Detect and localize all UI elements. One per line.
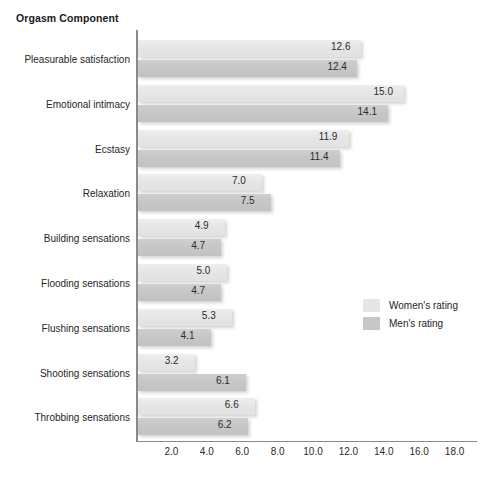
bar-value-label: 11.4 — [310, 151, 329, 162]
x-axis-line — [136, 441, 477, 442]
bar-chart: Orgasm Component Pleasurable satisfactio… — [0, 0, 491, 489]
bar-row: 3.2 — [138, 354, 477, 371]
bar-row: 11.4 — [138, 150, 477, 167]
bar-row: 7.5 — [138, 194, 477, 211]
x-tick-label: 2.0 — [164, 446, 178, 457]
legend-item[interactable]: Men's rating — [363, 315, 458, 331]
bar-value-label: 6.6 — [225, 399, 239, 410]
bar[interactable] — [138, 329, 211, 346]
bar-group: 3.26.1 — [138, 354, 477, 391]
bar-value-label: 14.1 — [358, 106, 377, 117]
x-tick-label: 12.0 — [339, 446, 358, 457]
bar-row: 4.7 — [138, 239, 477, 256]
legend-item[interactable]: Women's rating — [363, 297, 458, 313]
bar-value-label: 4.7 — [191, 285, 205, 296]
category-label: Flushing sensations — [2, 323, 130, 334]
bar-row: 11.9 — [138, 130, 477, 147]
bar-row: 12.4 — [138, 60, 477, 77]
x-tick-label: 14.0 — [374, 446, 393, 457]
bar-value-label: 12.4 — [327, 61, 346, 72]
category-label: Emotional intimacy — [2, 99, 130, 110]
legend-swatch-icon — [363, 317, 380, 330]
bar-value-label: 4.9 — [195, 220, 209, 231]
bar[interactable] — [138, 309, 232, 326]
bar[interactable] — [138, 130, 349, 147]
bar[interactable] — [138, 284, 221, 301]
bar-row: 12.6 — [138, 40, 477, 57]
page-title: Orgasm Component — [16, 12, 119, 24]
bar-row: 6.1 — [138, 374, 477, 391]
bar-value-label: 12.6 — [331, 41, 350, 52]
bar-row: 7.0 — [138, 174, 477, 191]
bar-row: 15.0 — [138, 85, 477, 102]
bar-value-label: 6.2 — [218, 419, 232, 430]
category-label: Shooting sensations — [2, 368, 130, 379]
bar-row: 6.6 — [138, 398, 477, 415]
x-tick-label: 8.0 — [271, 446, 285, 457]
x-tick-label: 10.0 — [303, 446, 322, 457]
bar-row: 5.0 — [138, 264, 477, 281]
bar[interactable] — [138, 239, 221, 256]
y-axis-category-labels: Pleasurable satisfactionEmotional intima… — [0, 30, 130, 442]
x-tick-label: 16.0 — [409, 446, 428, 457]
bar-group: 4.94.7 — [138, 219, 477, 256]
category-label: Flooding sensations — [2, 278, 130, 289]
bar-value-label: 7.5 — [241, 195, 255, 206]
bar-value-label: 6.1 — [216, 375, 230, 386]
bar-value-label: 5.0 — [197, 265, 211, 276]
bar-value-label: 11.9 — [319, 131, 338, 142]
bar-value-label: 5.3 — [202, 310, 216, 321]
bar[interactable] — [138, 264, 227, 281]
legend-label: Women's rating — [389, 300, 458, 311]
legend-swatch-icon — [363, 299, 380, 312]
x-tick-label: 6.0 — [235, 446, 249, 457]
bar-group: 12.612.4 — [138, 40, 477, 77]
bar-row: 6.2 — [138, 418, 477, 435]
category-label: Pleasurable satisfaction — [2, 54, 130, 65]
bar[interactable] — [138, 60, 357, 77]
bar-group: 15.014.1 — [138, 85, 477, 122]
bar-group: 5.04.7 — [138, 264, 477, 301]
category-label: Building sensations — [2, 233, 130, 244]
bar-value-label: 15.0 — [374, 86, 393, 97]
legend: Women's ratingMen's rating — [363, 297, 458, 333]
category-label: Ecstasy — [2, 144, 130, 155]
bar[interactable] — [138, 105, 388, 122]
bar-row: 4.9 — [138, 219, 477, 236]
bar-value-label: 3.2 — [165, 355, 179, 366]
bar-value-label: 4.7 — [191, 240, 205, 251]
bar-row: 14.1 — [138, 105, 477, 122]
bar[interactable] — [138, 40, 361, 57]
legend-label: Men's rating — [389, 318, 443, 329]
bar-value-label: 4.1 — [181, 330, 195, 341]
bar-group: 7.07.5 — [138, 174, 477, 211]
bar-group: 6.66.2 — [138, 398, 477, 435]
plot-area: 12.612.415.014.111.911.47.07.54.94.75.04… — [136, 30, 477, 442]
category-label: Relaxation — [2, 188, 130, 199]
bar[interactable] — [138, 85, 404, 102]
bar-value-label: 7.0 — [232, 175, 246, 186]
bar-group: 11.911.4 — [138, 130, 477, 167]
x-tick-label: 4.0 — [200, 446, 214, 457]
x-tick-label: 18.0 — [445, 446, 464, 457]
x-axis-tick-labels: 2.04.06.08.010.012.014.016.018.0 — [136, 446, 477, 462]
bar[interactable] — [138, 219, 225, 236]
category-label: Throbbing sensations — [2, 412, 130, 423]
